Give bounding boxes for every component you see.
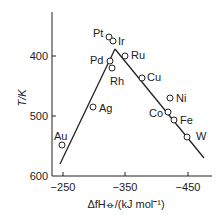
- point-au: [59, 142, 65, 148]
- label-au: Au: [54, 130, 67, 142]
- label-ni: Ni: [176, 92, 186, 104]
- trend-line-right: [115, 49, 204, 158]
- x-ticks: −250 −350 −450: [51, 172, 201, 193]
- label-cu: Cu: [147, 71, 161, 83]
- x-axis-label: ΔfH⦵/(kJ mol⁻¹): [87, 198, 164, 210]
- point-w: [184, 134, 190, 140]
- label-ir: Ir: [118, 35, 125, 47]
- label-pd: Pd: [90, 54, 103, 66]
- point-fe: [171, 117, 177, 123]
- point-ir: [110, 38, 116, 44]
- point-pd: [107, 58, 113, 64]
- y-tick-label: 500: [30, 110, 48, 122]
- point-ni: [167, 95, 173, 101]
- point-cu: [139, 75, 145, 81]
- y-tick-label: 600: [30, 170, 48, 182]
- point-labels: Au Ag Rh Pd Pt Ir Ru Cu Ni Co Fe W: [54, 27, 207, 142]
- label-pt: Pt: [93, 27, 103, 39]
- point-ag: [90, 104, 96, 110]
- label-co: Co: [149, 107, 163, 119]
- point-ru: [122, 53, 128, 59]
- x-tick-label: −350: [113, 181, 138, 193]
- label-w: W: [196, 130, 207, 142]
- y-axis-label: T/K: [16, 89, 28, 107]
- label-ag: Ag: [99, 102, 112, 114]
- y-tick-label: 400: [30, 50, 48, 62]
- data-points: [59, 34, 190, 148]
- label-fe: Fe: [180, 114, 193, 126]
- point-rh: [109, 65, 115, 71]
- x-tick-label: −250: [51, 181, 76, 193]
- point-co: [165, 109, 171, 115]
- label-ru: Ru: [131, 49, 145, 61]
- volcano-plot: 400 500 600 −250 −350 −450 T/K ΔfH⦵/(kJ …: [0, 0, 222, 220]
- x-tick-label: −450: [176, 181, 201, 193]
- label-rh: Rh: [110, 75, 124, 87]
